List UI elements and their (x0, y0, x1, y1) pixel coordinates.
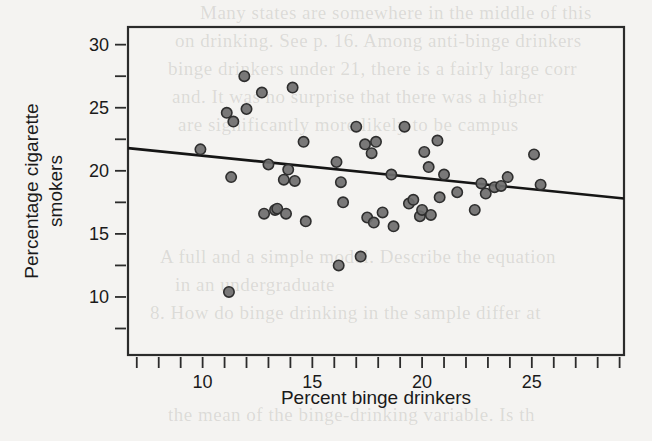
x-axis-title: Percent binge drinkers (281, 387, 471, 408)
data-point-group (195, 71, 546, 297)
data-point (371, 137, 381, 147)
data-point (355, 251, 365, 261)
data-point (279, 174, 289, 184)
data-point (535, 179, 545, 189)
data-point (502, 172, 512, 182)
data-point (419, 147, 429, 157)
data-point (228, 116, 238, 126)
data-point (452, 187, 462, 197)
y-tick-label: 30 (89, 35, 109, 55)
data-point (287, 82, 297, 92)
data-point (239, 71, 249, 81)
data-point (331, 157, 341, 167)
data-point (476, 178, 486, 188)
y-axis-title-line-1: Percentage cigarette (21, 103, 42, 278)
y-axis-tick-labels: 1015202530 (89, 35, 109, 307)
y-axis-ticks (115, 45, 126, 329)
data-point (257, 87, 267, 97)
data-point (399, 121, 409, 131)
data-point (224, 287, 234, 297)
data-point (226, 172, 236, 182)
data-point (263, 159, 273, 169)
x-tick-label: 10 (193, 372, 213, 392)
x-axis-ticks (137, 357, 620, 368)
data-point (195, 144, 205, 154)
data-point (439, 169, 449, 179)
y-tick-label: 20 (89, 161, 109, 181)
data-point (281, 209, 291, 219)
data-point (529, 149, 539, 159)
data-point (338, 197, 348, 207)
data-point (388, 221, 398, 231)
data-point (241, 104, 251, 114)
data-point (470, 205, 480, 215)
data-point (386, 169, 396, 179)
data-point (426, 210, 436, 220)
data-point (259, 209, 269, 219)
data-point (333, 260, 343, 270)
data-point (298, 137, 308, 147)
data-point (366, 148, 376, 158)
data-point (408, 195, 418, 205)
x-tick-label: 25 (522, 372, 542, 392)
data-point (301, 216, 311, 226)
data-point (283, 164, 293, 174)
data-point (423, 162, 433, 172)
data-point (432, 135, 442, 145)
data-point (369, 217, 379, 227)
data-point (351, 121, 361, 131)
y-tick-label: 10 (89, 287, 109, 307)
data-point (290, 176, 300, 186)
y-tick-label: 15 (89, 224, 109, 244)
scatter-plot: 10152025 1015202530 Percent binge drinke… (0, 0, 652, 441)
data-point (336, 177, 346, 187)
figure-page: Many states are somewhere in the middle … (0, 0, 652, 441)
y-tick-label: 25 (89, 98, 109, 118)
y-axis-title-line-2: smokers (45, 155, 66, 227)
data-point (377, 207, 387, 217)
data-point (434, 192, 444, 202)
